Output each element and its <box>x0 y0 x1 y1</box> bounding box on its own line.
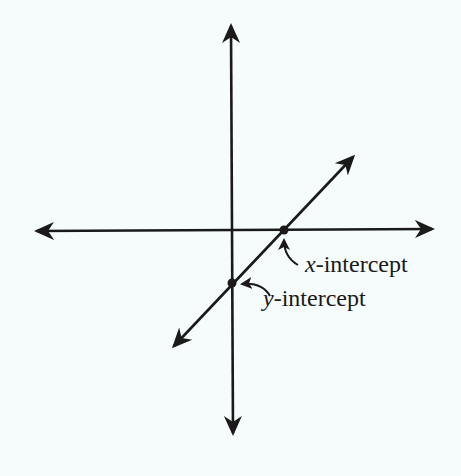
diagram-canvas: x-intercept y-intercept <box>0 0 461 476</box>
y-axis <box>231 26 233 433</box>
x-intercept-pointer-arrow <box>284 240 298 265</box>
x-intercept-label: x-intercept <box>304 251 408 277</box>
intercept-diagram: x-intercept y-intercept <box>0 0 461 476</box>
x-axis <box>37 229 432 231</box>
y-intercept-label: y-intercept <box>261 285 366 311</box>
y-intercept-point <box>228 279 237 288</box>
x-intercept-point <box>280 226 289 235</box>
